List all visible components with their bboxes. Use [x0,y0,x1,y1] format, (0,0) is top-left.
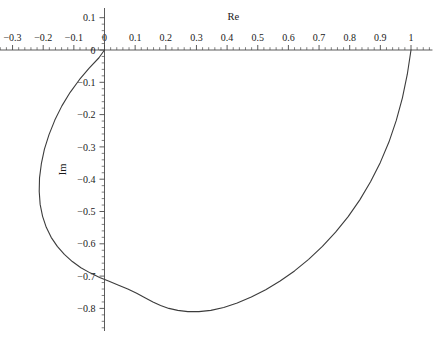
x-tick-label: −0.1 [65,32,83,43]
y-tick-label: −0.3 [77,142,95,153]
chart-canvas: −0.3−0.2−0.100.10.20.30.40.50.60.70.80.9… [0,0,438,348]
x-tick-label: 0.6 [282,32,295,43]
x-tick-label: 0.5 [252,32,265,43]
x-tick-label: 0.9 [374,32,387,43]
y-tick-label: −0.4 [77,174,95,185]
y-tick-label: 0 [91,45,96,56]
x-axis: −0.3−0.2−0.100.10.20.30.40.50.60.70.80.9… [0,32,432,50]
x-tick-label: −0.2 [34,32,52,43]
x-tick-label: 0.1 [129,32,142,43]
x-tick-label: 0.7 [313,32,326,43]
y-tick-label: −0.6 [77,238,95,249]
x-tick-label: −0.3 [3,32,21,43]
x-tick-label: 0.4 [221,32,234,43]
y-tick-label: −0.7 [77,271,95,282]
y-tick-label: −0.2 [77,109,95,120]
x-tick-label: 0.3 [190,32,203,43]
y-tick-label: −0.5 [77,206,95,217]
y-axis-title: Im [57,164,68,176]
x-tick-label: 0.2 [160,32,173,43]
x-tick-label: 1 [409,32,414,43]
complex-plane-plot: −0.3−0.2−0.100.10.20.30.40.50.60.70.80.9… [0,0,438,348]
y-tick-label: −0.8 [77,303,95,314]
x-axis-title: Re [227,11,239,22]
x-tick-label: 0.8 [343,32,356,43]
y-tick-label: 0.1 [83,12,96,23]
